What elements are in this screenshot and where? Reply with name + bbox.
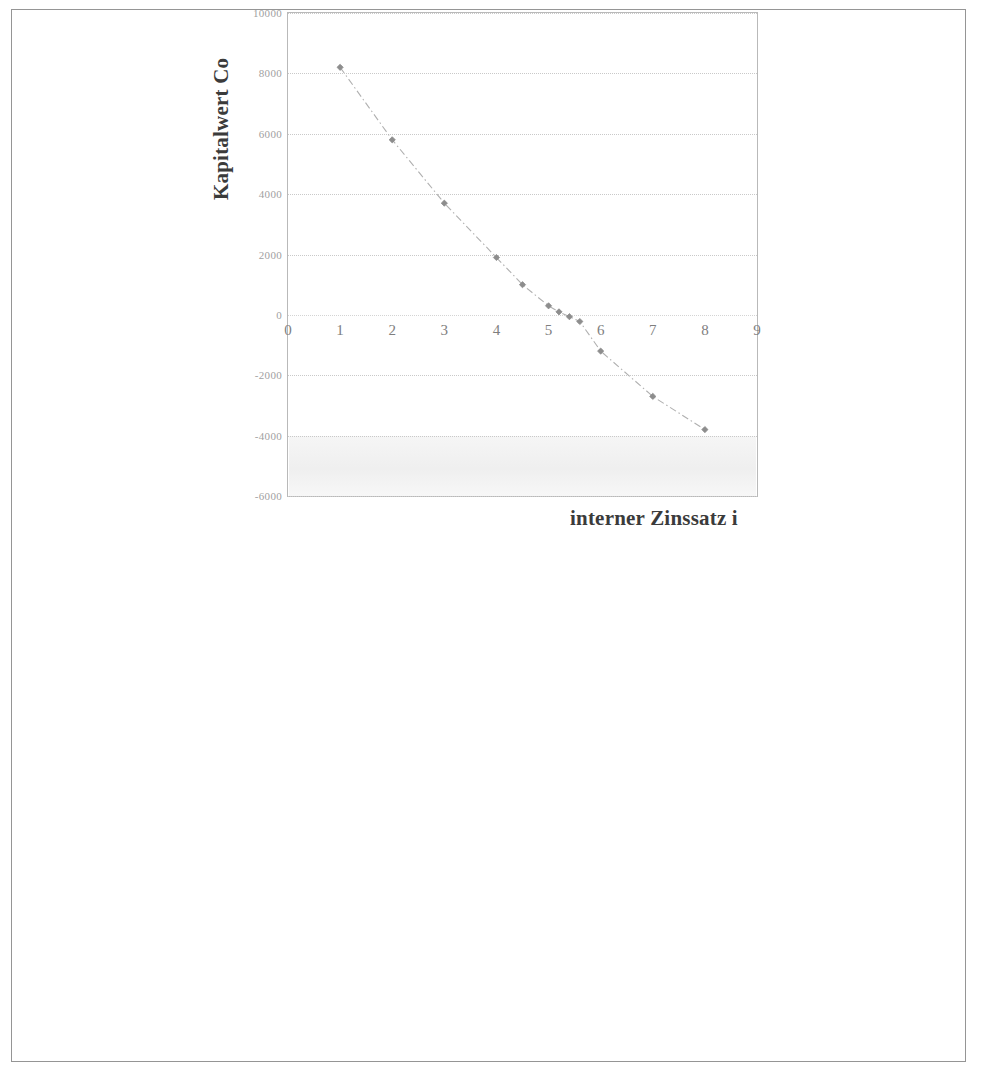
plot-area-1: 1000080006000400020000-2000-4000-6000012… [287, 12, 758, 497]
chart-figure-1: Kapitalwert Co 1000080006000400020000-20… [0, 0, 982, 537]
y-axis-tick-label: 4000 [259, 188, 282, 200]
y-axis-tick-label: 2000 [259, 249, 282, 261]
y-axis-tick-label: 8000 [259, 67, 282, 79]
data-point-marker [566, 314, 572, 320]
y-axis-tick-label: -6000 [255, 490, 282, 502]
y-axis-tick-label: 0 [276, 309, 282, 321]
y-axis-tick-label: -4000 [255, 430, 282, 442]
y-axis-tick-label: 10000 [253, 7, 282, 19]
data-point-marker [556, 309, 562, 315]
x-axis-title: interner Zinssatz i [570, 506, 738, 531]
y-axis-tick-label: 6000 [259, 128, 282, 140]
y-axis-tick-label: -2000 [255, 369, 282, 381]
y-axis-title: Kapitalwert Co [209, 58, 234, 200]
data-point-marker [577, 318, 583, 324]
series-line [340, 67, 705, 429]
data-series [288, 13, 757, 496]
plot-inner-1: 1000080006000400020000-2000-4000-6000012… [288, 13, 757, 496]
chart-figure-2: Kapitalwert Co 1000080006000400020000-20… [0, 537, 982, 1075]
data-point-marker [702, 426, 708, 432]
gridline-y [288, 496, 757, 497]
